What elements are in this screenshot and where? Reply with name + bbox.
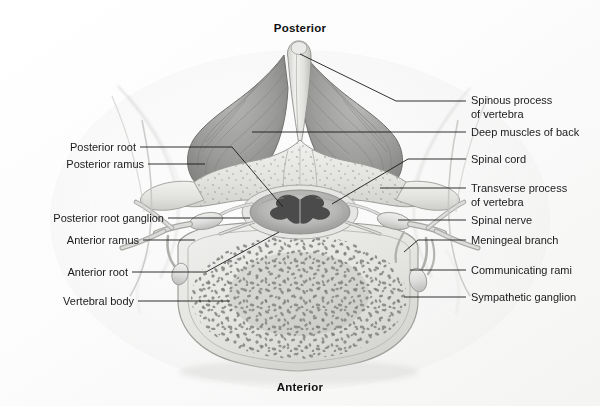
callout-label-spinous-process-of-vertebra: Spinous process of vertebra <box>471 94 552 121</box>
callout-label-posterior-ramus: Posterior ramus <box>66 158 144 172</box>
callout-label-spinal-nerve: Spinal nerve <box>471 214 532 228</box>
spinal-cord <box>242 185 358 239</box>
callout-label-meningeal-branch: Meningeal branch <box>471 234 558 248</box>
vertebral-body <box>178 221 418 371</box>
callout-label-posterior-root-ganglion: Posterior root ganglion <box>53 212 164 226</box>
callout-label-communicating-rami: Communicating rami <box>471 264 572 278</box>
callout-label-anterior-ramus: Anterior ramus <box>67 234 139 248</box>
callout-label-sympathetic-ganglion: Sympathetic ganglion <box>471 291 576 305</box>
callout-label-spinal-cord: Spinal cord <box>471 153 526 167</box>
callout-label-posterior-root: Posterior root <box>70 141 136 155</box>
callout-label-transverse-process-of-vertebra: Transverse process of vertebra <box>471 182 567 209</box>
callout-label-vertebral-body: Vertebral body <box>63 295 134 309</box>
orientation-label-posterior: Posterior <box>0 22 600 34</box>
anatomy-figure: Posterior Anterior Posterior rootPosteri… <box>0 0 600 406</box>
callout-label-deep-muscles-of-back: Deep muscles of back <box>471 126 579 140</box>
orientation-label-anterior: Anterior <box>0 381 600 393</box>
callout-label-anterior-root: Anterior root <box>67 266 128 280</box>
